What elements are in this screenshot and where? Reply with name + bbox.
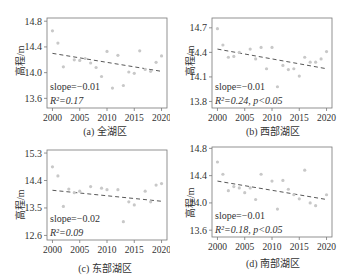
- data-point: [254, 198, 257, 201]
- y-tick-label: 15.3: [25, 148, 43, 159]
- data-point: [154, 183, 157, 186]
- x-tick-label: 2020: [317, 242, 336, 252]
- x-tick-label: 2010: [263, 113, 282, 123]
- data-point: [78, 59, 81, 62]
- data-point: [221, 173, 224, 176]
- x-tick-label: 2005: [70, 245, 89, 255]
- data-point: [309, 201, 312, 204]
- data-point: [314, 61, 317, 64]
- data-point: [325, 193, 328, 196]
- y-axis-label: 高程/m: [182, 45, 197, 76]
- data-point: [259, 173, 262, 176]
- slope-annotation: slope=−0.01: [215, 81, 265, 92]
- data-point: [56, 41, 59, 44]
- data-point: [276, 85, 279, 88]
- y-tick-label: 14.4: [25, 41, 43, 52]
- data-point: [238, 51, 241, 54]
- data-point: [227, 189, 230, 192]
- data-point: [73, 58, 76, 61]
- data-point: [51, 29, 54, 32]
- slope-annotation: slope=−0.01: [50, 81, 100, 92]
- y-axis-label: 高程/m: [12, 189, 27, 220]
- trend-line: [217, 49, 326, 69]
- data-point: [243, 191, 246, 194]
- data-point: [144, 68, 147, 71]
- x-tick-label: 2010: [98, 245, 117, 255]
- data-point: [314, 204, 317, 207]
- data-point: [62, 205, 65, 208]
- data-point: [309, 61, 312, 64]
- data-point: [216, 27, 219, 30]
- x-tick-label: 2005: [235, 242, 254, 252]
- data-point: [276, 207, 279, 210]
- data-point: [62, 65, 65, 68]
- x-tick-label: 2020: [152, 245, 170, 255]
- data-point: [122, 220, 125, 223]
- data-point: [319, 57, 322, 60]
- data-point: [133, 203, 136, 206]
- data-point: [298, 197, 301, 200]
- r2-annotation: R²=0.17: [49, 95, 84, 106]
- r2-annotation: R²=0.09: [49, 227, 83, 238]
- r2-annotation: R²=0.24, p<0.05: [214, 95, 283, 106]
- data-point: [287, 68, 290, 71]
- data-point: [67, 187, 70, 190]
- x-tick-label: 2015: [290, 242, 309, 252]
- panel-caption: (d) 南部湖区: [208, 255, 338, 270]
- y-tick-label: 14.4: [25, 175, 43, 186]
- data-point: [303, 169, 306, 172]
- panel-caption: (c) 东部湖区: [40, 260, 170, 275]
- data-point: [94, 66, 97, 69]
- y-axis-label: 高程/m: [12, 45, 27, 76]
- y-tick-label: 13.6: [190, 225, 208, 236]
- data-point: [51, 165, 54, 168]
- x-tick-label: 2010: [98, 113, 117, 123]
- trend-line: [217, 181, 326, 199]
- data-point: [292, 193, 295, 196]
- data-point: [232, 55, 235, 58]
- y-tick-label: 14.8: [190, 143, 208, 154]
- data-point: [116, 54, 119, 57]
- x-tick-label: 2015: [125, 113, 144, 123]
- x-tick-label: 2020: [152, 113, 170, 123]
- data-point: [154, 61, 157, 64]
- data-point: [89, 185, 92, 188]
- data-point: [149, 200, 152, 203]
- x-tick-label: 2015: [290, 113, 309, 123]
- data-point: [138, 49, 141, 52]
- data-point: [249, 186, 252, 189]
- data-point: [254, 57, 257, 60]
- y-tick-label: 14.0: [25, 67, 43, 78]
- data-point: [221, 43, 224, 46]
- slope-annotation: slope=−0.02: [50, 213, 100, 224]
- y-tick-label: 14.4: [190, 170, 208, 181]
- y-axis-label: 高程/m: [182, 187, 197, 218]
- y-tick-label: 14.7: [190, 22, 208, 33]
- data-point: [144, 190, 147, 193]
- data-point: [105, 188, 108, 191]
- data-point: [127, 200, 130, 203]
- y-tick-label: 13.8: [190, 96, 208, 107]
- slope-annotation: slope=−0.01: [215, 210, 265, 221]
- panel-b: 13.814.114.414.720002005201020152020slop…: [170, 0, 340, 140]
- data-point: [100, 187, 103, 190]
- data-point: [281, 64, 284, 67]
- data-point: [149, 70, 152, 73]
- data-point: [78, 190, 81, 193]
- data-point: [116, 188, 119, 191]
- r2-annotation: R²=0.18, p<0.05: [214, 224, 283, 235]
- x-tick-label: 2005: [235, 113, 254, 123]
- x-tick-label: 2000: [43, 113, 62, 123]
- panel-caption: (a) 全湖区: [40, 123, 170, 138]
- data-point: [56, 174, 59, 177]
- panel-caption: (b) 西部湖区: [208, 123, 338, 138]
- data-point: [249, 47, 252, 50]
- panel-d: 13.614.014.414.820002005201020152020slop…: [170, 140, 340, 279]
- data-point: [270, 46, 273, 49]
- data-point: [287, 188, 290, 191]
- data-point: [100, 75, 103, 78]
- x-tick-label: 2000: [43, 245, 62, 255]
- data-point: [298, 74, 301, 77]
- x-tick-label: 2010: [263, 242, 282, 252]
- data-point: [270, 179, 273, 182]
